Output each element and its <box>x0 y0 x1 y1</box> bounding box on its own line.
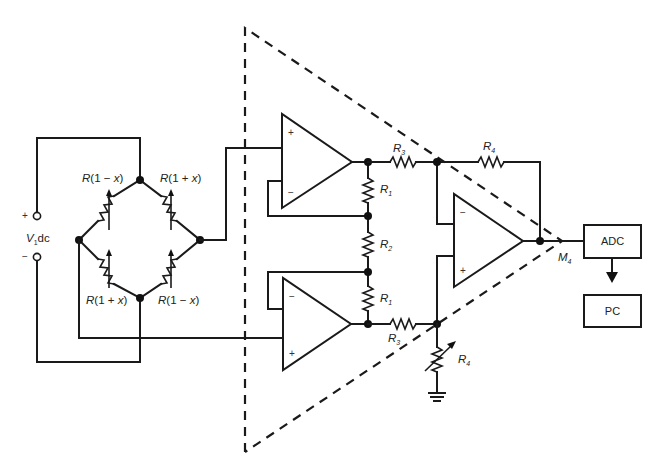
label-r1-top: R1 <box>380 183 392 197</box>
label-gauge-bottom-left: R(1 + x) <box>86 294 127 306</box>
node-r3-r4-top <box>433 158 441 166</box>
wire-to-opamp-out-minus <box>437 162 454 224</box>
resistor-r3-top: R3 <box>368 142 437 167</box>
pc-block: PC <box>584 295 641 327</box>
source-label: V1dc <box>26 232 50 246</box>
wire-source-to-bridge-bottom <box>37 298 140 362</box>
resistor-r2: R2 <box>363 216 392 272</box>
gauge-bottom-right <box>140 240 200 298</box>
source-plus-terminal <box>33 212 40 219</box>
gauge-top-right <box>140 180 200 240</box>
opamp-top-minus: − <box>288 187 294 198</box>
opamp-bottom-minus: − <box>289 291 295 302</box>
node-output <box>536 237 544 245</box>
opamp-top: + − <box>282 114 352 208</box>
label-r1-bottom: R1 <box>380 292 392 306</box>
arrow-adc-to-pc <box>606 258 618 283</box>
wheatstone-bridge: R(1 − x) R(1 + x) R(1 + x) R(1 − x) <box>75 172 204 306</box>
label-gauge-top-right: R(1 + x) <box>160 172 201 184</box>
opamp-out-plus: + <box>460 265 466 276</box>
resistor-r4-feedback: R4 <box>437 140 540 241</box>
wire-to-opamp-out-plus <box>437 256 454 324</box>
resistor-r4-variable: R4 <box>425 324 470 393</box>
node-r1-r2-bottom <box>364 268 372 276</box>
resistor-r1-top: R1 <box>363 162 392 216</box>
gauge-bottom-left <box>79 240 140 298</box>
label-r4-variable: R4 <box>458 353 470 367</box>
opamp-bottom: − + <box>283 278 351 370</box>
opamp-bottom-plus: + <box>289 348 295 359</box>
opamp-top-plus: + <box>288 127 294 138</box>
bridge-node-bottom <box>136 294 144 302</box>
gauge-top-left <box>79 180 140 240</box>
label-r3-bottom: R3 <box>388 332 400 346</box>
source-plus-sign: + <box>22 210 28 221</box>
circuit-diagram: + − V1dc <box>0 0 665 474</box>
label-gauge-top-left: R(1 − x) <box>82 172 123 184</box>
amplifier-boundary <box>245 28 562 452</box>
dc-source: + − V1dc <box>22 138 50 362</box>
label-r4-feedback: R4 <box>483 140 495 154</box>
opamp-out-minus: − <box>460 207 466 218</box>
label-gauge-bottom-right: R(1 − x) <box>158 294 199 306</box>
label-r2: R2 <box>380 238 392 252</box>
resistor-r3-bottom: R3 <box>368 319 437 346</box>
ground-icon <box>429 393 445 401</box>
wire-bridge-to-opamp-top <box>200 148 282 240</box>
node-r1-r2-top <box>364 212 372 220</box>
adc-block: ADC <box>584 225 641 258</box>
label-r3-top: R3 <box>393 142 405 156</box>
pc-label: PC <box>605 305 620 317</box>
adc-label: ADC <box>601 235 624 247</box>
source-minus-sign: − <box>22 251 28 262</box>
source-minus-terminal <box>33 253 40 260</box>
resistor-r1-bottom: R1 <box>363 272 392 324</box>
bridge-node-top <box>136 176 144 184</box>
label-output-m4: M4 <box>558 251 572 265</box>
